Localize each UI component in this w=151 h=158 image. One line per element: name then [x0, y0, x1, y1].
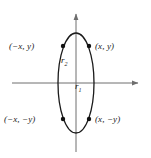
radius-horizontal-subscript: 1: [79, 87, 82, 93]
radius-label-horizontal: r1: [75, 82, 82, 93]
point-marker-bottom-right: [87, 117, 91, 121]
diagram-canvas: [0, 0, 151, 158]
point-marker-top-left: [61, 44, 65, 48]
point-label-top-right: (x, y): [95, 42, 114, 51]
point-marker-bottom-left: [61, 117, 65, 121]
radius-vertical-subscript: 2: [65, 61, 68, 67]
point-label-bottom-right: (x, −y): [95, 115, 120, 124]
point-label-bottom-left: (−x, −y): [4, 115, 35, 124]
radius-label-vertical: r2: [61, 56, 68, 67]
point-label-top-left: (−x, y): [9, 42, 34, 51]
point-marker-top-right: [87, 44, 91, 48]
ellipse-diagram: (−x, y) (x, y) (−x, −y) (x, −y) r2 r1: [0, 0, 151, 158]
